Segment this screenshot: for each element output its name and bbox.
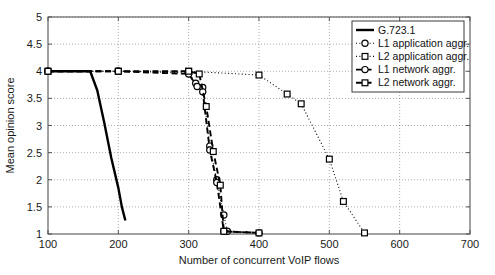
data-point-marker xyxy=(362,230,368,236)
legend-item-label: G.723.1 xyxy=(378,24,416,36)
x-axis-title: Number of concurrent VoIP flows xyxy=(179,254,340,266)
data-point-marker xyxy=(115,68,121,74)
series-5 xyxy=(45,68,262,235)
data-point-marker xyxy=(203,104,209,110)
legend-marker-circle xyxy=(362,40,368,46)
legend-item-label: L2 network aggr. xyxy=(378,76,456,88)
x-axis-tick-label: 500 xyxy=(320,238,338,250)
data-point-marker xyxy=(217,182,223,188)
x-axis-tick-label: 400 xyxy=(250,238,268,250)
y-axis-tick-label: 3.5 xyxy=(27,92,42,104)
y-axis-tick-label: 2 xyxy=(36,174,42,186)
legend-marker-circle xyxy=(362,67,368,73)
series-line xyxy=(48,71,365,233)
chart-figure: 10020030040050060070011.522.533.544.55Nu… xyxy=(0,0,495,275)
legend-item-label: L1 network aggr. xyxy=(378,63,456,75)
y-axis-tick-label: 1 xyxy=(36,228,42,240)
x-axis-tick-label: 600 xyxy=(390,238,408,250)
data-point-marker xyxy=(256,72,262,78)
series-line xyxy=(48,71,259,233)
x-axis-tick-label: 700 xyxy=(461,238,479,250)
series-line xyxy=(48,71,259,233)
y-axis-tick-label: 1.5 xyxy=(27,201,42,213)
series-line xyxy=(48,71,125,220)
series-4 xyxy=(45,68,262,236)
legend-item-label: L2 application aggr. xyxy=(378,50,469,62)
data-point-marker xyxy=(196,71,202,77)
y-axis-title: Mean opinion score xyxy=(4,77,16,173)
mos-vs-voip-flows-chart: 10020030040050060070011.522.533.544.55Nu… xyxy=(0,0,495,275)
data-point-marker xyxy=(298,101,304,107)
data-point-marker xyxy=(45,68,51,74)
series-3 xyxy=(45,68,367,235)
series-line xyxy=(48,71,227,231)
data-point-marker xyxy=(341,199,347,205)
data-point-marker xyxy=(186,68,192,74)
legend-marker-square xyxy=(362,54,368,60)
chart-legend: G.723.1L1 application aggr.L2 applicatio… xyxy=(352,21,469,92)
data-point-marker xyxy=(210,149,216,155)
y-axis-tick-label: 3 xyxy=(36,120,42,132)
legend-item-label: L1 application aggr. xyxy=(378,37,469,49)
y-axis-tick-label: 5 xyxy=(36,11,42,23)
data-point-marker xyxy=(194,83,200,89)
legend-marker-square xyxy=(362,80,368,86)
data-point-marker xyxy=(284,91,290,97)
y-axis-tick-label: 4.5 xyxy=(27,38,42,50)
series-1 xyxy=(48,71,125,220)
data-point-marker xyxy=(256,230,262,236)
data-point-marker xyxy=(326,156,332,162)
x-axis-tick-label: 200 xyxy=(109,238,127,250)
x-axis-tick-label: 300 xyxy=(179,238,197,250)
y-axis-tick-label: 2.5 xyxy=(27,147,42,159)
y-axis-tick-label: 4 xyxy=(36,65,42,77)
data-point-marker xyxy=(221,228,227,234)
